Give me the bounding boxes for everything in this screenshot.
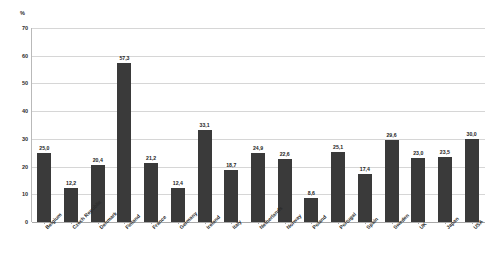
bar-slot: 24,9 (245, 28, 272, 222)
bar-value-label: 8,6 (308, 190, 315, 196)
bar-value-label: 24,9 (253, 145, 263, 151)
bar-slot: 25,0 (31, 28, 58, 222)
bar-value-label: 57,3 (119, 55, 129, 61)
bar[interactable] (144, 163, 158, 222)
bar-value-label: 22,6 (280, 151, 290, 157)
x-axis-tick: Poland (298, 224, 325, 271)
bar-value-label: 18,7 (226, 162, 236, 168)
x-axis-tick: France (138, 224, 165, 271)
bar-value-label: 30,0 (467, 131, 477, 137)
bar-value-label: 25,0 (39, 145, 49, 151)
x-axis-tick: Netherlands (245, 224, 272, 271)
bar-slot: 57,3 (111, 28, 138, 222)
x-axis-tick: Norway (271, 224, 298, 271)
bar-value-label: 12,4 (173, 180, 183, 186)
bar[interactable] (465, 139, 479, 222)
bar-slot: 29,6 (378, 28, 405, 222)
bar-slot: 12,2 (58, 28, 85, 222)
bar-slot: 25,1 (325, 28, 352, 222)
x-axis-tick: USA (458, 224, 485, 271)
x-axis-tick: Sweden (378, 224, 405, 271)
bar-slot: 21,2 (138, 28, 165, 222)
bar-value-label: 20,4 (93, 157, 103, 163)
bar-slot: 20,4 (84, 28, 111, 222)
bar-slot: 22,6 (271, 28, 298, 222)
bar-slot: 23,5 (432, 28, 459, 222)
bar[interactable] (358, 174, 372, 222)
y-axis-unit-label: % (20, 10, 25, 16)
bar-slot: 33,1 (191, 28, 218, 222)
bar[interactable] (411, 158, 425, 222)
x-axis-tick: Spain (351, 224, 378, 271)
bar-chart: % 010203040506070 25,012,220,457,321,212… (0, 0, 498, 271)
bar-value-label: 25,1 (333, 144, 343, 150)
bar[interactable] (171, 188, 185, 222)
bar-value-label: 12,2 (66, 180, 76, 186)
bar[interactable] (331, 152, 345, 222)
bar-slot: 12,4 (165, 28, 192, 222)
x-axis-tick: Portugal (325, 224, 352, 271)
bar[interactable] (304, 198, 318, 222)
bar-value-label: 23,5 (440, 149, 450, 155)
x-axis-tick: Finland (111, 224, 138, 271)
bar[interactable] (198, 130, 212, 222)
x-axis-tick: Japan (432, 224, 459, 271)
bar-slot: 8,6 (298, 28, 325, 222)
bar[interactable] (224, 170, 238, 222)
bar[interactable] (37, 153, 51, 222)
x-axis-labels-group: BelgiumCzech RepublicDenmarkFinlandFranc… (31, 224, 485, 271)
x-axis-tick: Ireland (191, 224, 218, 271)
bar-value-label: 33,1 (200, 122, 210, 128)
x-axis-tick: Italy (218, 224, 245, 271)
bar-slot: 17,4 (351, 28, 378, 222)
bar-slot: 23,0 (405, 28, 432, 222)
x-axis-tick: UK (405, 224, 432, 271)
bar[interactable] (385, 140, 399, 222)
bar-value-label: 17,4 (360, 166, 370, 172)
bar-value-label: 23,0 (413, 150, 423, 156)
x-axis-tick: Denmark (84, 224, 111, 271)
bars-group: 25,012,220,457,321,212,433,118,724,922,6… (31, 28, 485, 222)
bar-slot: 18,7 (218, 28, 245, 222)
bar[interactable] (251, 153, 265, 222)
bar-slot: 30,0 (458, 28, 485, 222)
bar-value-label: 29,6 (386, 132, 396, 138)
bar[interactable] (117, 63, 131, 222)
x-axis-tick: Czech Republic (58, 224, 85, 271)
bar[interactable] (91, 165, 105, 222)
bar-value-label: 21,2 (146, 155, 156, 161)
bar[interactable] (64, 188, 78, 222)
bar[interactable] (438, 157, 452, 222)
x-axis-tick: Germany (165, 224, 192, 271)
x-axis-tick: Belgium (31, 224, 58, 271)
